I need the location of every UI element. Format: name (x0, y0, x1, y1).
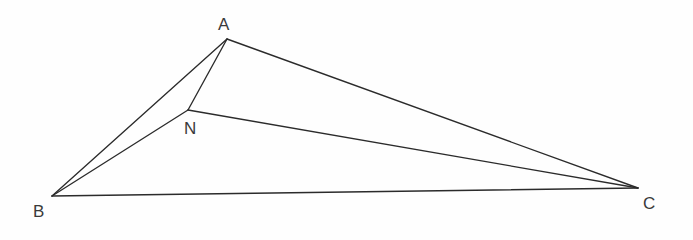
segment-bc (52, 188, 638, 196)
segment-ac (227, 39, 638, 188)
vertex-label-b: B (33, 203, 45, 220)
figure-canvas (0, 0, 693, 240)
vertex-label-n: N (184, 120, 197, 137)
segment-an (188, 39, 227, 110)
segment-ab (52, 39, 227, 196)
vertex-label-c: C (643, 195, 656, 212)
segment-nc (188, 110, 638, 188)
vertex-label-a: A (218, 16, 230, 33)
segment-bn (52, 110, 188, 196)
geometry-figure: A B C N (0, 0, 693, 240)
